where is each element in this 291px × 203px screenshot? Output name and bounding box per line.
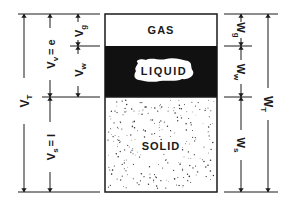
svg-text:WT: WT [259,96,275,112]
svg-text:Vw: Vw [73,62,88,76]
vv-label: Vv= e [45,39,60,68]
ww-label: Ww [232,64,247,81]
liquid-phase: LIQUID [105,46,217,97]
vt-label: VT [18,94,34,107]
liquid-label: LIQUID [141,65,187,77]
gas-label: GAS [148,24,175,36]
gas-phase: GAS [148,24,175,36]
svg-text:Vs= I: Vs= I [45,134,60,160]
column-outline [105,14,217,192]
svg-text:Ws: Ws [232,138,247,153]
vw-label: Vw [73,62,88,76]
vg-label: Vg [73,25,88,37]
phase-diagram: GAS LIQUID SOLID [0,0,291,203]
svg-text:Vv= e: Vv= e [45,39,60,68]
svg-text:Wg: Wg [232,22,247,37]
phase-column: GAS LIQUID SOLID [105,14,217,192]
svg-text:VT: VT [18,94,34,107]
ws-label: Ws [232,138,247,153]
weight-labels: Wg Ww Ws WT [232,22,275,153]
wg-label: Wg [232,22,247,37]
svg-text:Ww: Ww [232,64,247,81]
vs-label: Vs= I [45,134,60,160]
solid-label: SOLID [142,140,181,152]
svg-text:Vg: Vg [73,25,88,37]
wt-label: WT [259,96,275,112]
